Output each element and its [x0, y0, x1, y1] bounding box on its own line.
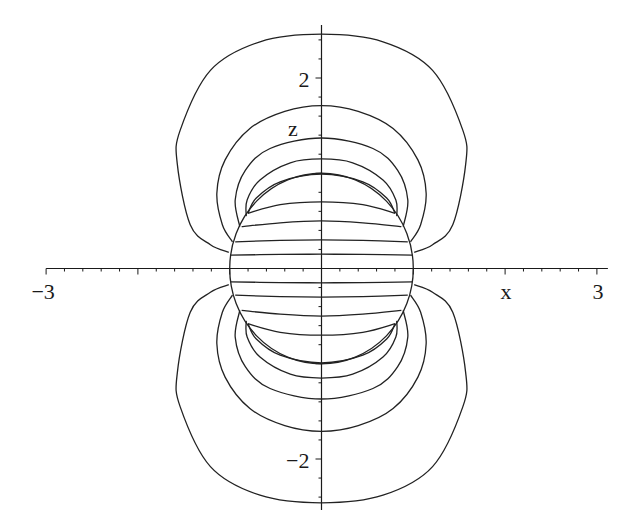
x-axis-label: x: [501, 279, 512, 304]
contour-plot: x z −3 3 2 −2: [0, 0, 633, 531]
z-axis-label: z: [288, 116, 298, 141]
x-tick-label: 3: [592, 279, 603, 304]
z-tick-label: 2: [299, 67, 310, 92]
z-tick-label: −2: [286, 448, 309, 473]
x-tick-label: −3: [31, 279, 54, 304]
axis-labels: x z −3 3 2 −2: [31, 67, 603, 473]
axes: [46, 25, 608, 510]
